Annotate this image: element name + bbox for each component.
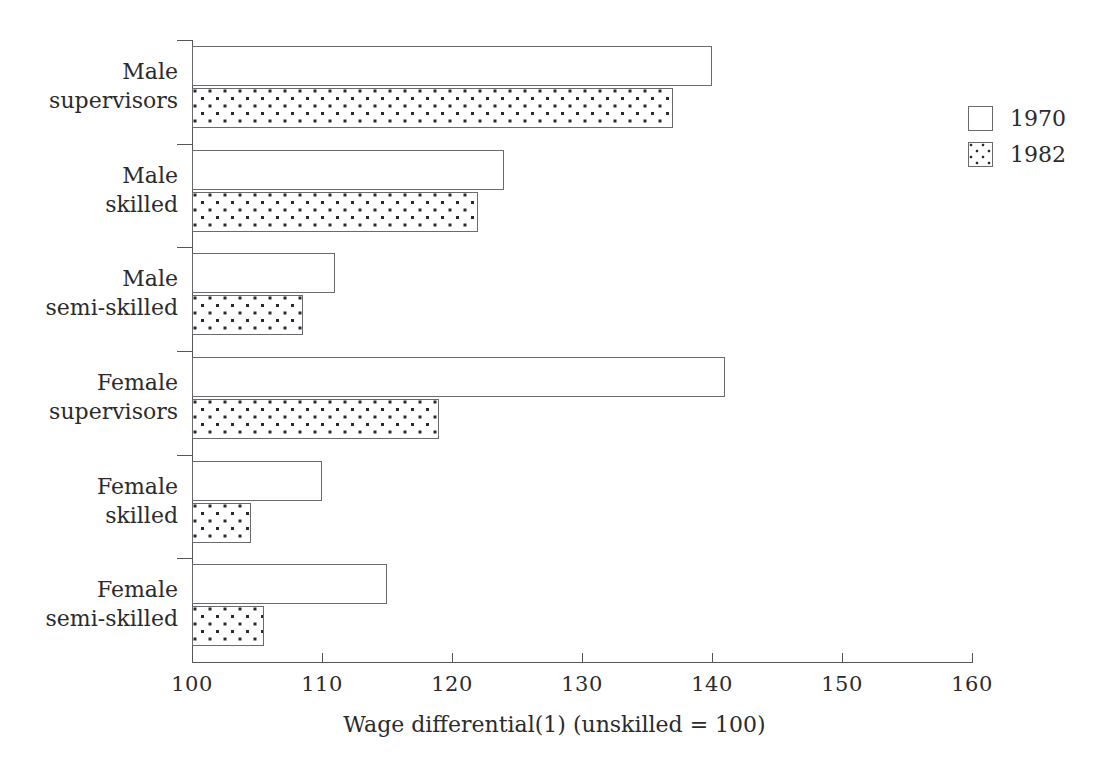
x-axis-tick — [842, 653, 843, 662]
bar-1970-group-0 — [192, 46, 712, 86]
legend-label-1970: 1970 — [1010, 106, 1066, 131]
category-label: Maleskilled — [8, 161, 178, 219]
bar-1982-group-3 — [192, 399, 439, 439]
category-label-line: Female — [8, 368, 178, 397]
x-axis-tick-label: 100 — [171, 672, 213, 696]
y-axis-group-tick — [177, 558, 193, 559]
bar-1970-group-4 — [192, 461, 322, 501]
bar-1982-group-5 — [192, 606, 264, 646]
category-label: Malesemi-skilled — [8, 264, 178, 322]
bar-1970-group-2 — [192, 253, 335, 293]
x-axis-tick — [712, 653, 713, 662]
x-axis-tick — [452, 653, 453, 662]
y-axis-top-tick — [177, 40, 193, 41]
category-label-line: skilled — [8, 501, 178, 530]
y-axis-group-tick — [177, 351, 193, 352]
x-axis-tick-label: 160 — [951, 672, 993, 696]
legend: 1970 1982 — [968, 100, 1066, 172]
wage-differential-bar-chart: MalesupervisorsMaleskilledMalesemi-skill… — [0, 0, 1109, 767]
category-label-line: Male — [8, 57, 178, 86]
category-label-line: Female — [8, 575, 178, 604]
category-label: Femaleskilled — [8, 472, 178, 530]
x-axis-tick — [972, 653, 973, 662]
x-axis-tick — [322, 653, 323, 662]
category-label-line: Female — [8, 472, 178, 501]
x-axis-tick-label: 130 — [561, 672, 603, 696]
category-label-line: Male — [8, 264, 178, 293]
legend-swatch-1970 — [968, 106, 993, 131]
bar-1982-group-0 — [192, 88, 673, 128]
legend-item-1970: 1970 — [968, 100, 1066, 136]
x-axis-tick-label: 150 — [821, 672, 863, 696]
x-axis-tick — [582, 653, 583, 662]
bar-1970-group-1 — [192, 150, 504, 190]
category-label: Malesupervisors — [8, 57, 178, 115]
bar-1982-group-4 — [192, 503, 251, 543]
x-axis-tick-label: 110 — [301, 672, 343, 696]
y-axis-group-tick — [177, 455, 193, 456]
x-axis-tick-label: 120 — [431, 672, 473, 696]
y-axis-group-tick — [177, 144, 193, 145]
x-axis-tick — [192, 653, 193, 662]
category-label: Femalesemi-skilled — [8, 575, 178, 633]
legend-label-1982: 1982 — [1010, 142, 1066, 167]
x-axis-title: Wage differential(1) (unskilled = 100) — [0, 712, 1109, 737]
category-label-line: semi-skilled — [8, 604, 178, 633]
category-label: Femalesupervisors — [8, 368, 178, 426]
y-axis-group-tick — [177, 247, 193, 248]
category-label-line: supervisors — [8, 397, 178, 426]
bar-1970-group-3 — [192, 357, 725, 397]
legend-swatch-1982 — [968, 142, 993, 167]
category-label-line: Male — [8, 161, 178, 190]
bar-1970-group-5 — [192, 564, 387, 604]
x-axis-line — [192, 662, 973, 663]
legend-item-1982: 1982 — [968, 136, 1066, 172]
x-axis-tick-label: 140 — [691, 672, 733, 696]
category-label-line: skilled — [8, 190, 178, 219]
bar-1982-group-1 — [192, 192, 478, 232]
bar-1982-group-2 — [192, 295, 303, 335]
category-label-line: supervisors — [8, 86, 178, 115]
category-label-line: semi-skilled — [8, 293, 178, 322]
